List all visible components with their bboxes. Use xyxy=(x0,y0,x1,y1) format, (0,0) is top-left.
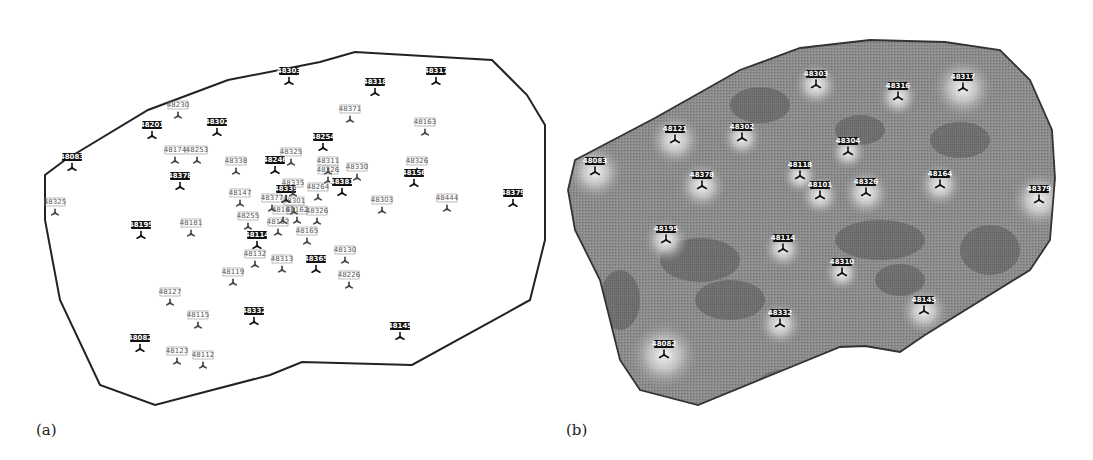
station-label: 48082 xyxy=(652,340,676,348)
svg-text:48195: 48195 xyxy=(654,225,678,233)
svg-text:48310: 48310 xyxy=(830,258,854,266)
station-label: 48164 xyxy=(928,170,952,178)
svg-text:48326: 48326 xyxy=(854,178,878,186)
station-label: 48316 xyxy=(886,82,910,90)
svg-text:48083: 48083 xyxy=(583,157,607,165)
station-label: 48379 xyxy=(1027,185,1051,193)
svg-text:48118: 48118 xyxy=(788,161,812,169)
station-label: 48378 xyxy=(690,171,714,179)
station-label: 48302 xyxy=(730,123,754,131)
svg-text:48164: 48164 xyxy=(928,170,952,178)
svg-text:48121: 48121 xyxy=(663,125,687,133)
svg-text:48378: 48378 xyxy=(690,171,714,179)
station-label: 48310 xyxy=(830,258,854,266)
station-label: 48118 xyxy=(788,161,812,169)
svg-text:48082: 48082 xyxy=(652,340,676,348)
station-label: 48145 xyxy=(912,296,936,304)
station-label: 48114 xyxy=(771,234,795,242)
station-label: 48317 xyxy=(951,73,975,81)
interpolated-surface-map-b: 4808348121483024830348316483174830448118… xyxy=(0,0,1093,460)
svg-text:48316: 48316 xyxy=(886,82,910,90)
svg-text:48304: 48304 xyxy=(836,137,860,145)
station-label: 48332 xyxy=(768,309,792,317)
svg-text:48145: 48145 xyxy=(912,296,936,304)
station-label: 48101 xyxy=(808,181,832,189)
station-label: 48195 xyxy=(654,225,678,233)
svg-text:48379: 48379 xyxy=(1027,185,1051,193)
panel-label-b: (b) xyxy=(566,421,587,439)
svg-text:48302: 48302 xyxy=(730,123,754,131)
svg-text:48317: 48317 xyxy=(951,73,975,81)
station-label: 48083 xyxy=(583,157,607,165)
svg-text:48332: 48332 xyxy=(768,309,792,317)
svg-text:48303: 48303 xyxy=(804,70,828,78)
svg-text:48101: 48101 xyxy=(808,181,832,189)
station-label: 48303 xyxy=(804,70,828,78)
station-label: 48304 xyxy=(836,137,860,145)
svg-text:48114: 48114 xyxy=(771,234,795,242)
station-label: 48326 xyxy=(854,178,878,186)
station-label: 48121 xyxy=(663,125,687,133)
